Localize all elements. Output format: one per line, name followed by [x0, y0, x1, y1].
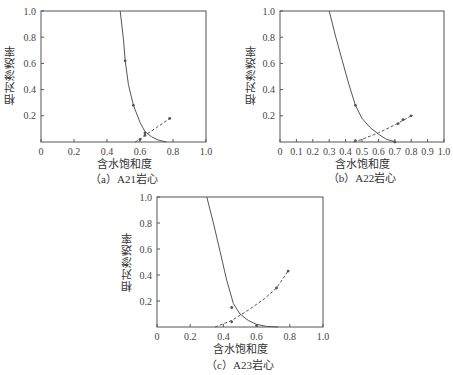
y-tick-label: 0.4 — [140, 270, 153, 281]
data-point-marker — [287, 270, 290, 273]
data-point-marker — [230, 320, 233, 323]
axes-frame — [157, 197, 323, 327]
chart-caption: （c）A23岩心 — [190, 356, 290, 372]
data-point-marker — [255, 324, 258, 327]
x-axis-label: 含水饱和度 — [200, 340, 280, 356]
y-tick-label: 1.0 — [140, 192, 153, 203]
y-tick-label: 0.8 — [140, 218, 153, 229]
x-tick-label: 1.0 — [317, 331, 330, 342]
x-tick-label: 0.8 — [284, 331, 297, 342]
x-tick-label: 0 — [155, 331, 160, 342]
data-point-marker — [230, 306, 233, 309]
y-tick-label: 0.2 — [140, 296, 153, 307]
x-tick-label: 0.2 — [184, 331, 197, 342]
chart-panel-c: 相对渗透率 00.20.40.60.81.00.20.40.60.81.0 含水… — [0, 0, 453, 375]
plot-area: 00.20.40.60.81.00.20.40.60.81.0 — [0, 0, 453, 375]
oil-curve — [207, 197, 278, 327]
y-tick-label: 0.6 — [140, 244, 153, 255]
data-point-marker — [275, 287, 278, 290]
